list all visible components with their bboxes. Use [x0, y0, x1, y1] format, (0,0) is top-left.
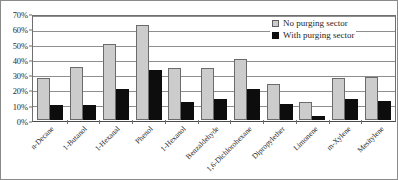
y-tick-label: 50%	[13, 41, 28, 50]
x-label-slot: Mesitylene	[363, 123, 396, 180]
bar-no-purging	[234, 59, 247, 120]
bar-no-purging	[267, 84, 280, 120]
bar-no-purging	[103, 44, 116, 120]
bar-group	[34, 16, 67, 120]
legend-label-with-purging: With purging sector	[283, 31, 354, 40]
x-label-slot: 1-Butanol	[66, 123, 99, 180]
bar-no-purging	[168, 68, 181, 120]
y-tick-label: 0%	[17, 118, 28, 127]
x-label-slot: Phenol	[132, 123, 165, 180]
x-label-slot: 1-Hexanal	[99, 123, 132, 180]
bar-group	[198, 16, 231, 120]
bar-with-purging	[214, 99, 227, 120]
bar-group	[230, 16, 263, 120]
legend-swatch-icon-no-purging	[272, 20, 279, 27]
bar-group	[99, 16, 132, 120]
chart-legend: No purging sector With purging sector	[270, 18, 356, 41]
bar-with-purging	[149, 70, 162, 121]
bar-no-purging	[70, 67, 83, 120]
bar-with-purging	[83, 105, 96, 120]
bar-group	[361, 16, 394, 120]
bar-with-purging	[378, 101, 391, 120]
bar-group	[67, 16, 100, 120]
y-tick-label: 40%	[13, 57, 28, 66]
y-tick-label: 70%	[13, 11, 28, 20]
x-tick-label: Phenol	[134, 125, 154, 145]
x-tick-label: m-Xylene	[325, 125, 352, 152]
bar-with-purging	[247, 89, 260, 120]
x-label-slot: Limonene	[297, 123, 330, 180]
x-axis-labels: n-Decane1-Butanol1-HexanalPhenol1-Hexano…	[33, 123, 396, 180]
x-label-slot: Dipropylether	[264, 123, 297, 180]
y-tick-label: 20%	[13, 87, 28, 96]
bar-with-purging	[181, 102, 194, 120]
bar-no-purging	[365, 77, 378, 120]
y-tick-label: 10%	[13, 102, 28, 111]
bar-no-purging	[201, 68, 214, 120]
legend-item-no-purging: No purging sector	[272, 19, 354, 28]
bar-no-purging	[332, 78, 345, 120]
bar-no-purging	[299, 102, 312, 120]
x-label-slot: n-Decane	[33, 123, 66, 180]
bar-no-purging	[136, 25, 149, 120]
bar-with-purging	[50, 105, 63, 120]
bar-no-purging	[37, 78, 50, 120]
y-axis: 0%10%20%30%40%50%60%70%	[1, 15, 30, 122]
legend-label-no-purging: No purging sector	[283, 19, 348, 28]
bar-group	[165, 16, 198, 120]
legend-swatch-icon-with-purging	[272, 32, 279, 39]
legend-item-with-purging: With purging sector	[272, 31, 354, 40]
bar-group	[132, 16, 165, 120]
chart-figure: 0%10%20%30%40%50%60%70% n-Decane1-Butano…	[0, 0, 398, 180]
y-tick-label: 60%	[13, 26, 28, 35]
bar-with-purging	[116, 89, 129, 120]
x-tick-label: n-Decane	[29, 125, 55, 151]
bar-with-purging	[312, 116, 325, 120]
bar-with-purging	[345, 99, 358, 120]
x-tick-label: 1-Butanol	[61, 125, 88, 152]
y-tick-label: 30%	[13, 72, 28, 81]
bar-with-purging	[280, 104, 293, 120]
